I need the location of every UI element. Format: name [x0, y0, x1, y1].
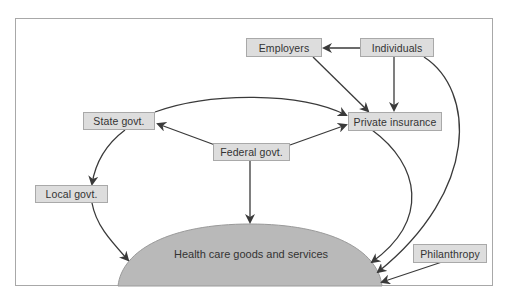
arrow-federal-state: [158, 124, 215, 145]
arrow-private-insurance-health-care: [372, 130, 412, 262]
node-state-govt: State govt.: [83, 112, 155, 130]
arrow-individuals-health-care: [378, 57, 459, 272]
node-local-govt: Local govt.: [35, 185, 108, 203]
arrow-state-local: [92, 130, 125, 184]
health-care-label: Health care goods and services: [174, 248, 328, 260]
arrow-federal-private-insurance: [290, 125, 346, 145]
arrow-philanthropy-health-care: [382, 262, 442, 282]
node-federal-govt: Federal govt.: [213, 143, 290, 161]
arrow-state-private-insurance: [155, 97, 346, 115]
arrow-local-health-care: [92, 203, 128, 260]
arrow-employers-private-insurance: [313, 57, 368, 111]
node-employers: Employers: [246, 38, 322, 57]
node-philanthropy: Philanthropy: [413, 244, 487, 263]
node-private-insurance: Private insurance: [348, 112, 442, 131]
health-care-financing-diagram: Employers Individuals Private insurance …: [0, 0, 506, 304]
node-individuals: Individuals: [360, 38, 434, 57]
